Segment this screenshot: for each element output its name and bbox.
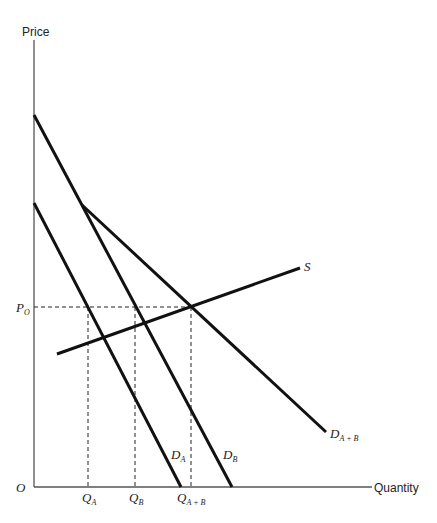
demand-ab-label: DA + B (329, 426, 359, 443)
x-axis-label: Quantity (374, 481, 419, 495)
qb-label: QB (129, 490, 143, 507)
demand-b-label: DB (222, 447, 237, 464)
demand-a-curve (34, 203, 181, 487)
demand-a-label: DA (170, 447, 185, 464)
supply-curve (57, 268, 300, 354)
qa-label: QA (82, 490, 96, 507)
demand-ab-curve (82, 205, 326, 432)
qab-label: QA + B (177, 490, 206, 507)
y-axis-label: Price (22, 25, 50, 39)
supply-demand-diagram: Price Quantity O PO QA QB QA + B DA DB D… (0, 0, 437, 523)
supply-label: S (304, 259, 311, 274)
price-label: PO (15, 300, 30, 317)
origin-label: O (16, 480, 26, 495)
